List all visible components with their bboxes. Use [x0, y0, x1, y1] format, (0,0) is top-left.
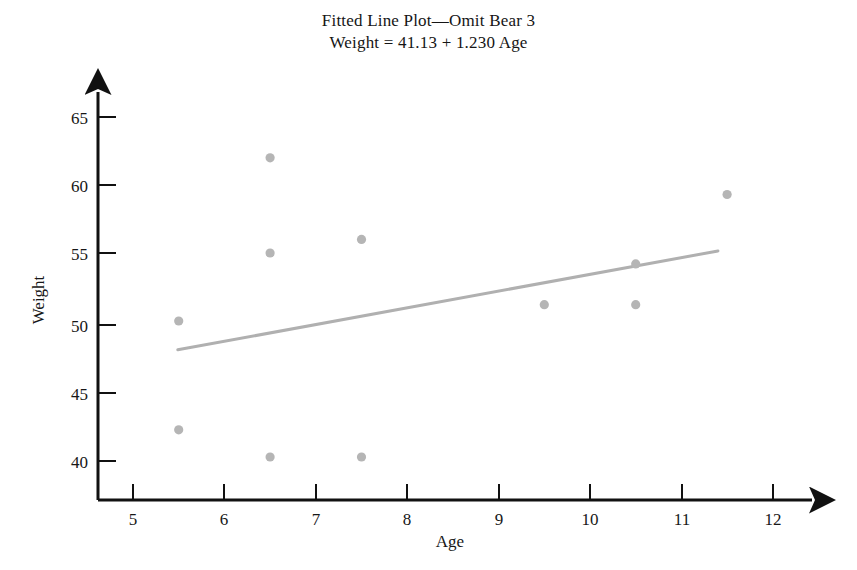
x-tick-label-6: 6: [220, 510, 229, 529]
y-axis-title: Weight: [29, 275, 48, 324]
scatter-point: [266, 452, 275, 461]
scatter-point: [631, 259, 640, 268]
scatter-point: [631, 300, 640, 309]
x-tick-label-12: 12: [765, 510, 782, 529]
plot-canvas: 65 60 55 50 45 40 5 6 7 8 9 10 11: [0, 0, 857, 570]
y-tick-label-65: 65: [71, 109, 88, 128]
scatter-point: [540, 300, 549, 309]
x-axis-ticks: [133, 484, 773, 500]
y-tick-label-40: 40: [71, 453, 88, 472]
y-tick-label-50: 50: [71, 317, 88, 336]
x-tick-label-10: 10: [582, 510, 599, 529]
scatter-point: [266, 248, 275, 257]
x-tick-label-11: 11: [674, 510, 690, 529]
x-tick-label-8: 8: [403, 510, 412, 529]
y-tick-label-60: 60: [71, 177, 88, 196]
scatter-point: [723, 190, 732, 199]
x-axis-title: Age: [436, 532, 464, 551]
x-tick-label-5: 5: [129, 510, 138, 529]
y-axis-ticks: [98, 117, 116, 461]
scatter-point: [357, 452, 366, 461]
scatter-point: [174, 425, 183, 434]
scatter-point: [357, 235, 366, 244]
y-tick-label-55: 55: [71, 245, 88, 264]
y-axis-tick-labels: 65 60 55 50 45 40: [71, 109, 88, 472]
x-tick-label-7: 7: [312, 510, 321, 529]
scatter-point: [174, 316, 183, 325]
scatter-point: [266, 153, 275, 162]
x-axis-tick-labels: 5 6 7 8 9 10 11 12: [129, 510, 782, 529]
scatter-point-group: [174, 153, 732, 461]
x-tick-label-9: 9: [495, 510, 504, 529]
y-tick-label-45: 45: [71, 385, 88, 404]
fitted-line-plot-figure: Fitted Line Plot—Omit Bear 3 Weight = 41…: [0, 0, 857, 570]
